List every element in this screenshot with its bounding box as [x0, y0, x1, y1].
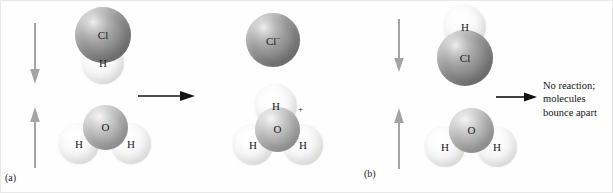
- hydrogen-label: H: [461, 22, 469, 33]
- chloride-ion-label: Cl–: [266, 34, 280, 47]
- hydrogen-label: H: [299, 140, 307, 151]
- hydronium-charge-label: +: [298, 105, 303, 114]
- oxygen-atom: O: [255, 107, 300, 152]
- hydrogen-label: H: [441, 142, 449, 153]
- hydrogen-label: H: [127, 139, 135, 150]
- figure-canvas: H Cl H H O Cl– H H H: [0, 0, 613, 193]
- motion-arrow-down-panel-b: [391, 19, 407, 73]
- chloride-ion: Cl–: [246, 13, 300, 67]
- hydrogen-label: H: [99, 58, 107, 69]
- oxygen-atom: O: [449, 108, 494, 153]
- no-reaction-note-line1: No reaction;: [543, 79, 597, 92]
- oxygen-label: O: [102, 122, 110, 133]
- hydrogen-label: H: [272, 101, 280, 112]
- motion-arrow-up-panel-a: [27, 106, 43, 168]
- outcome-arrow-panel-b: [496, 89, 538, 105]
- no-reaction-note-line2: molecules: [543, 92, 597, 105]
- oxygen-label: O: [274, 124, 282, 135]
- motion-arrow-down-panel-a: [27, 23, 43, 85]
- chlorine-label: Cl: [460, 53, 470, 64]
- reaction-arrow-panel-a: [138, 88, 196, 104]
- panel-label-b: (b): [364, 169, 376, 179]
- oxygen-atom: O: [83, 105, 128, 150]
- no-reaction-note-line3: bounce apart: [543, 106, 597, 119]
- panel-label-a: (a): [5, 173, 16, 183]
- hydrogen-label: H: [493, 142, 501, 153]
- chlorine-atom: Cl: [75, 7, 131, 63]
- chlorine-atom: Cl: [437, 30, 493, 86]
- chlorine-label: Cl: [98, 30, 108, 41]
- chloride-symbol: Cl: [266, 34, 276, 46]
- motion-arrow-up-panel-b: [391, 107, 407, 169]
- oxygen-label: O: [468, 125, 476, 136]
- hydrogen-label: H: [75, 139, 83, 150]
- hydrogen-label: H: [249, 140, 257, 151]
- no-reaction-note: No reaction; molecules bounce apart: [543, 79, 597, 119]
- chloride-charge: –: [276, 33, 280, 42]
